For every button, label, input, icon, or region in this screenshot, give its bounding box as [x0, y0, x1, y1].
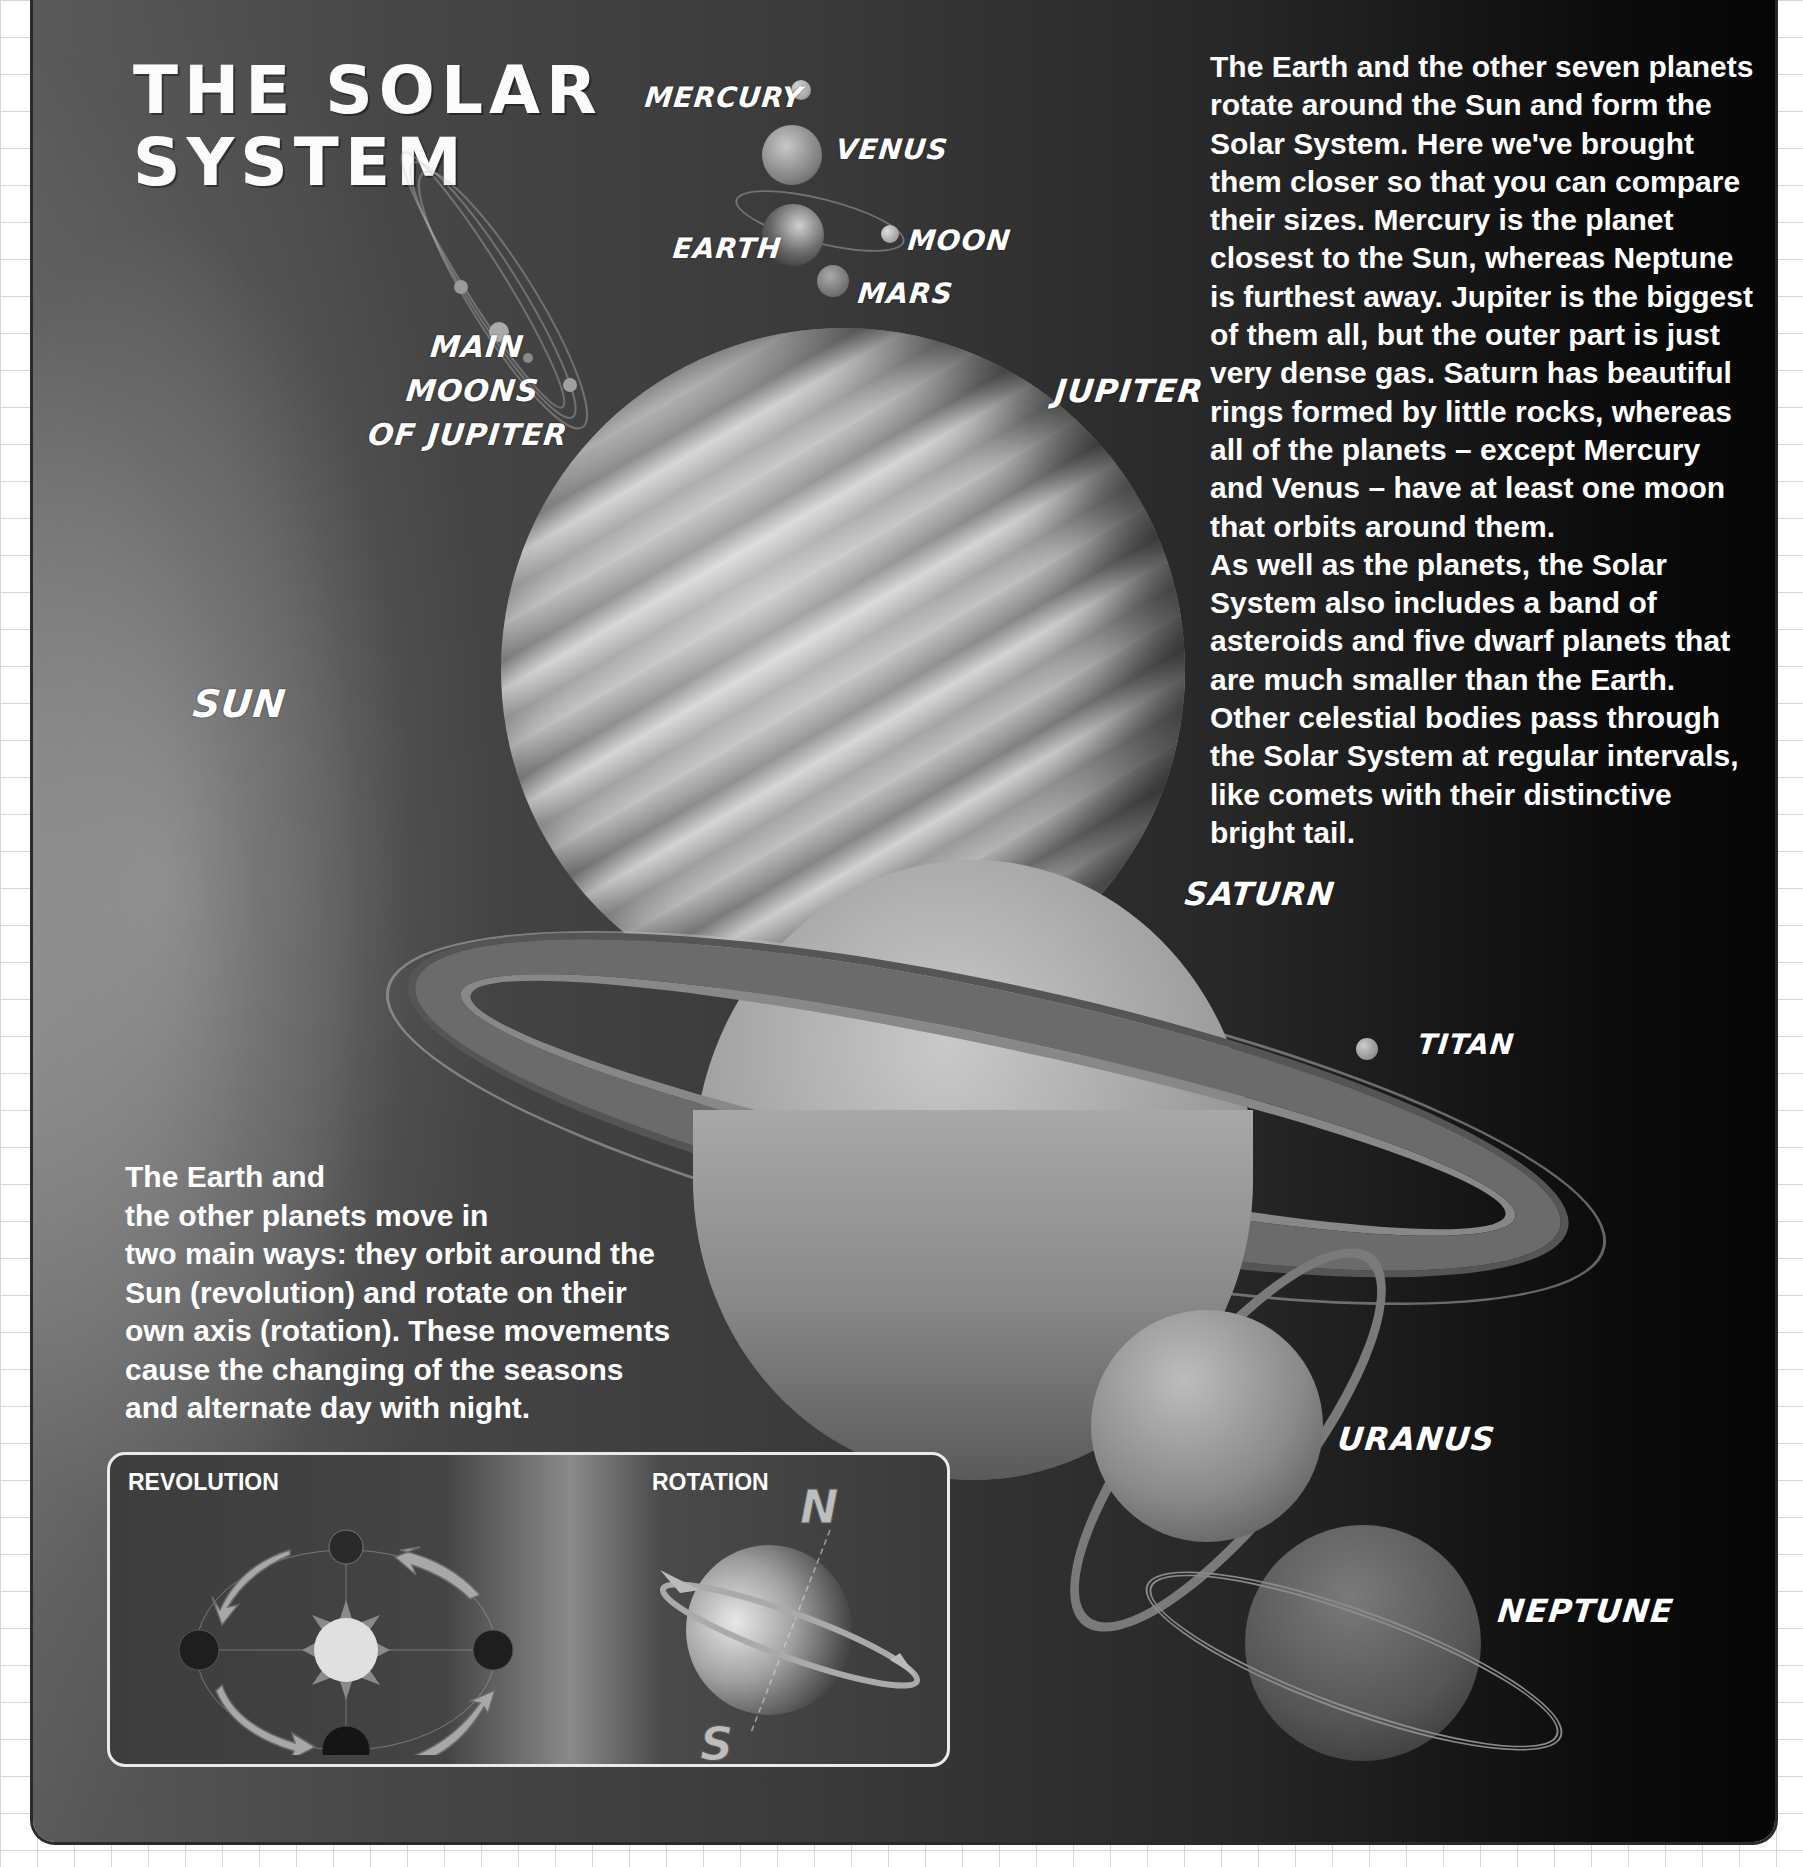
venus-planet — [762, 125, 822, 185]
movement-line: Sun (revolution) and rotate on their — [125, 1274, 685, 1313]
saturn-label: SATURN — [1183, 875, 1337, 913]
intro-line: of them all, but the outer part is just — [1210, 316, 1770, 354]
titan-moon — [1356, 1038, 1378, 1060]
main-moons-line-3: OF JUPITER — [366, 413, 570, 457]
movement-paragraph: The Earth and the other planets move in … — [125, 1158, 685, 1428]
intro-line: are much smaller than the Earth. — [1210, 661, 1770, 699]
earth-position-bottom — [322, 1726, 370, 1755]
intro-line: As well as the planets, the Solar — [1210, 546, 1770, 584]
intro-line: rotate around the Sun and form the — [1210, 86, 1770, 124]
movement-line: two main ways: they orbit around the — [125, 1235, 685, 1274]
title-line-1: THE SOLAR — [133, 55, 603, 127]
intro-line: like comets with their distinctive — [1210, 776, 1770, 814]
main-moons-line-1: MAIN — [375, 325, 579, 369]
sun-label: SUN — [191, 682, 289, 726]
neptune-label: NEPTUNE — [1496, 1592, 1676, 1630]
jupiter-label: JUPITER — [1053, 372, 1206, 410]
intro-line: Other celestial bodies pass through — [1210, 699, 1770, 737]
earth-label: EARTH — [671, 232, 783, 265]
poster-panel: THE SOLAR SYSTEM MERCURY VENUS EARTH MOO… — [33, 0, 1775, 1842]
intro-line: that orbits around them. — [1210, 508, 1770, 546]
intro-line: the Solar System at regular intervals, — [1210, 737, 1770, 775]
moon-label: MOON — [906, 224, 1012, 257]
intro-line: closest to the Sun, whereas Neptune — [1210, 239, 1770, 277]
uranus-planet — [1091, 1310, 1323, 1542]
intro-line: The Earth and the other seven planets — [1210, 48, 1770, 86]
venus-label: VENUS — [834, 133, 950, 166]
intro-line: all of the planets – except Mercury — [1210, 431, 1770, 469]
mercury-label: MERCURY — [643, 81, 805, 114]
intro-line: bright tail. — [1210, 814, 1770, 852]
revolution-label: REVOLUTION — [128, 1469, 279, 1496]
north-icon: N — [800, 1480, 839, 1534]
movement-line: the other planets move in — [125, 1197, 685, 1236]
south-icon: S — [700, 1717, 733, 1765]
earth-position-left — [179, 1630, 219, 1670]
rotation-arrows: N S — [650, 1475, 930, 1765]
main-moons-line-2: MOONS — [371, 369, 575, 413]
intro-line: asteroids and five dwarf planets that — [1210, 622, 1770, 660]
main-moons-label: MAIN MOONS OF JUPITER — [366, 325, 579, 457]
intro-line: them closer so that you can compare — [1210, 163, 1770, 201]
earth-position-top — [329, 1530, 363, 1564]
intro-line: rings formed by little rocks, whereas — [1210, 393, 1770, 431]
movement-line: cause the changing of the seasons — [125, 1351, 685, 1390]
revolution-diagram — [150, 1495, 550, 1755]
titan-label: TITAN — [1416, 1028, 1516, 1061]
intro-line: System also includes a band of — [1210, 584, 1770, 622]
uranus-label: URANUS — [1336, 1420, 1497, 1458]
movement-line: The Earth and — [125, 1158, 685, 1197]
movement-line: own axis (rotation). These movements — [125, 1312, 685, 1351]
intro-paragraph: The Earth and the other seven planets ro… — [1210, 48, 1770, 852]
intro-line: is furthest away. Jupiter is the biggest — [1210, 278, 1770, 316]
intro-line: very dense gas. Saturn has beautiful — [1210, 354, 1770, 392]
movement-line: and alternate day with night. — [125, 1389, 685, 1428]
moon-satellite — [881, 225, 899, 243]
mars-label: MARS — [856, 277, 955, 310]
mars-planet — [817, 265, 849, 297]
intro-line: and Venus – have at least one moon — [1210, 469, 1770, 507]
movement-diagram-box: REVOLUTION ROTATION — [107, 1452, 950, 1767]
intro-line: Solar System. Here we've brought — [1210, 125, 1770, 163]
sun-icon — [302, 1600, 390, 1700]
intro-line: their sizes. Mercury is the planet — [1210, 201, 1770, 239]
earth-position-right — [473, 1630, 513, 1670]
